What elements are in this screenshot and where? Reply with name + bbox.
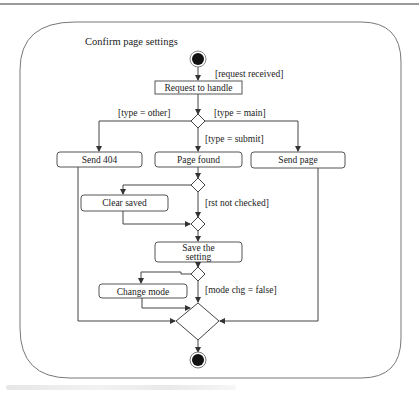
action-request-to-handle-label: Request to handle xyxy=(164,83,232,93)
decision-node-mode xyxy=(191,267,205,281)
edge-to-clear-saved xyxy=(123,185,191,194)
figure-caption-faded xyxy=(6,385,236,390)
edge-change-mode-merge xyxy=(142,298,190,308)
action-change-mode-label: Change mode xyxy=(117,287,170,297)
decision-node-type xyxy=(191,114,205,128)
activity-diagram: Confirm page settings [request received]… xyxy=(0,0,419,397)
merge-node-rst xyxy=(191,217,205,231)
guard-request-received: [request received] xyxy=(215,69,283,79)
edge-to-change-mode xyxy=(141,272,191,283)
action-send-page-label: Send page xyxy=(278,155,317,165)
initial-node-icon xyxy=(190,51,206,67)
guard-rst-not-checked: [rst not checked] xyxy=(205,198,269,208)
guard-mode-chg-false: [mode chg = false] xyxy=(205,285,277,295)
guard-type-other: [type = other] xyxy=(118,108,170,118)
action-save-setting-label-1: Save the xyxy=(182,243,214,253)
frame-title: Confirm page settings xyxy=(85,36,178,47)
action-page-found-label: Page found xyxy=(177,155,220,165)
guard-type-main: [type = main] xyxy=(214,108,266,118)
guard-type-submit: [type = submit] xyxy=(205,134,264,144)
merge-node-final xyxy=(176,303,219,340)
action-send-404-label: Send 404 xyxy=(82,155,118,165)
decision-node-rst xyxy=(191,178,205,192)
edge-to-send-404 xyxy=(99,121,191,151)
action-save-setting-label-2: setting xyxy=(186,252,212,262)
final-node-icon xyxy=(190,352,206,368)
action-clear-saved-label: Clear saved xyxy=(102,198,147,208)
edge-clear-saved-merge xyxy=(123,211,190,224)
